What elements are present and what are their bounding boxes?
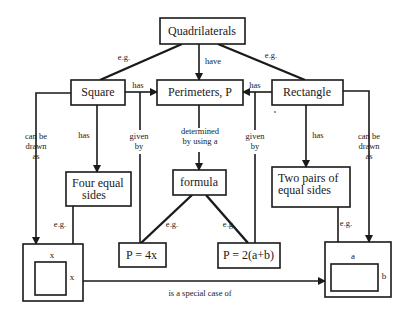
node-p-rect: P = 2(a+b) (218, 243, 280, 268)
node-square: Square (71, 80, 125, 105)
edge-quad-rectangle (218, 44, 305, 80)
label-given-by-square: given by (128, 130, 152, 154)
node-two-pairs: Two pairs of equal sides (272, 167, 350, 207)
concept-map: e.g. e.g. have has has can be drawn as c… (0, 0, 412, 316)
label-eg-rectangle: e.g. (265, 50, 277, 60)
label-has-two: has (312, 130, 323, 140)
label-eg-formula-left: e.g. (166, 219, 178, 229)
rect-side-label: b (382, 271, 387, 281)
stray-dot (274, 111, 276, 113)
svg-text:can be: can be (25, 131, 47, 141)
svg-text:P = 4x: P = 4x (126, 248, 157, 262)
svg-text:drawn: drawn (25, 141, 47, 151)
svg-text:by: by (251, 141, 260, 151)
node-quadrilaterals: Quadrilaterals (160, 18, 245, 44)
node-formula: formula (173, 170, 226, 195)
svg-text:Square: Square (81, 85, 114, 99)
label-have: have (205, 56, 221, 66)
node-perimeters: Perimeters, P (157, 80, 243, 105)
rect-top-label: a (351, 251, 355, 261)
label-eg-square: e.g. (118, 52, 130, 62)
svg-text:given: given (246, 131, 266, 141)
edge-quad-square (100, 44, 182, 80)
svg-text:P = 2(a+b): P = 2(a+b) (223, 248, 274, 262)
square-side-label: x (70, 272, 75, 282)
svg-text:by: by (135, 141, 144, 151)
svg-text:sides: sides (82, 188, 106, 202)
label-eg-two: e.g. (340, 218, 352, 228)
label-square-drawn-as: can be drawn as (25, 131, 47, 161)
label-special-case: is a special case of (168, 288, 231, 298)
svg-text:can be: can be (358, 131, 380, 141)
svg-text:formula: formula (180, 175, 219, 189)
label-eg-four: e.g. (54, 219, 66, 229)
svg-text:Perimeters, P: Perimeters, P (168, 85, 232, 99)
node-rectangle: Rectangle (272, 80, 343, 105)
label-has-four: has (78, 130, 89, 140)
svg-text:drawn: drawn (358, 141, 380, 151)
node-p-square: P = 4x (119, 243, 166, 267)
svg-text:determined: determined (181, 126, 220, 136)
label-has-rectangle: has (249, 80, 260, 90)
svg-text:equal sides: equal sides (278, 183, 331, 197)
label-given-by-rect: given by (243, 130, 267, 154)
label-has-square: has (132, 80, 143, 90)
node-rect-drawing: a b (325, 242, 391, 297)
square-top-label: x (50, 250, 55, 260)
svg-text:given: given (130, 131, 150, 141)
svg-text:by using a: by using a (183, 136, 218, 146)
svg-text:as: as (365, 151, 372, 161)
svg-text:Quadrilaterals: Quadrilaterals (168, 24, 236, 38)
label-eg-formula-right: e.g. (223, 219, 235, 229)
label-rect-drawn-as: can be drawn as (358, 131, 380, 161)
label-determined-by: determined by using a (172, 126, 228, 152)
node-four-equal-sides: Four equal sides (66, 172, 131, 206)
node-square-drawing: x x (23, 244, 83, 301)
svg-text:Rectangle: Rectangle (283, 85, 331, 99)
svg-text:as: as (32, 151, 39, 161)
